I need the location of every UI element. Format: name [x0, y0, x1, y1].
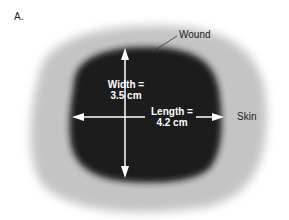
length-label-line2: 4.2 cm [148, 117, 196, 128]
wound-region [69, 47, 221, 183]
skin-label: Skin [237, 111, 256, 122]
width-label-line1: Width = [104, 79, 148, 90]
width-label-line2: 3.5 cm [104, 90, 148, 101]
width-measurement: Width = 3.5 cm [104, 79, 148, 101]
length-measurement: Length = 4.2 cm [148, 106, 196, 128]
wound-label: Wound [179, 29, 211, 40]
wound-diagram [0, 0, 289, 220]
length-label-line1: Length = [148, 106, 196, 117]
